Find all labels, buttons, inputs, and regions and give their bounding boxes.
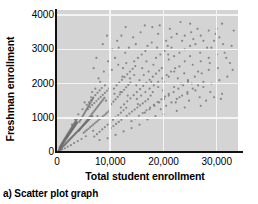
scatter-point: [102, 43, 104, 45]
scatter-point: [137, 103, 139, 105]
x-axis-title: Total student enrollment: [40, 170, 250, 182]
scatter-plot-figure: Freshman enrollment 01000200030004000 01…: [0, 0, 258, 204]
scatter-point: [120, 106, 122, 108]
scatter-point: [112, 125, 114, 127]
scatter-point: [192, 88, 194, 90]
scatter-point: [153, 105, 155, 107]
scatter-point: [192, 38, 194, 40]
scatter-point: [177, 77, 179, 79]
scatter-point: [100, 96, 102, 98]
scatter-point: [209, 91, 211, 93]
scatter-point: [233, 29, 235, 31]
scatter-point: [111, 69, 113, 71]
scatter-point: [176, 98, 178, 100]
scatter-point: [169, 28, 171, 30]
gridline-horizontal: [57, 83, 238, 85]
scatter-point: [123, 103, 125, 105]
scatter-point: [164, 95, 166, 97]
scatter-point: [136, 91, 138, 93]
scatter-point: [125, 26, 127, 28]
scatter-point: [121, 76, 123, 78]
x-axis-tick-label: 0: [54, 156, 60, 168]
scatter-point: [152, 76, 154, 78]
scatter-point: [104, 84, 106, 86]
scatter-point: [179, 21, 181, 23]
scatter-point: [90, 99, 92, 101]
scatter-point: [157, 33, 159, 35]
scatter-point: [135, 43, 137, 45]
scatter-point: [170, 36, 172, 38]
scatter-point: [174, 67, 176, 69]
scatter-point: [175, 101, 177, 103]
scatter-point: [141, 67, 143, 69]
scatter-point: [232, 69, 234, 71]
scatter-point: [189, 55, 191, 57]
scatter-point: [91, 91, 93, 93]
scatter-point: [136, 98, 138, 100]
scatter-point: [93, 102, 95, 104]
scatter-points-layer: [57, 10, 238, 152]
scatter-point: [158, 69, 160, 71]
scatter-point: [218, 36, 220, 38]
scatter-point: [67, 145, 69, 147]
scatter-point: [120, 119, 122, 121]
scatter-point: [145, 109, 147, 111]
scatter-point: [173, 70, 175, 72]
scatter-point: [130, 120, 132, 122]
scatter-point: [149, 79, 151, 81]
scatter-point: [147, 98, 149, 100]
scatter-point: [134, 65, 136, 67]
scatter-point: [138, 124, 140, 126]
scatter-point: [220, 98, 222, 100]
scatter-point: [138, 79, 140, 81]
scatter-point: [144, 112, 146, 114]
scatter-point: [101, 128, 103, 130]
scatter-point: [64, 147, 66, 149]
scatter-point: [139, 88, 141, 90]
scatter-point: [218, 79, 220, 81]
scatter-point: [121, 79, 123, 81]
scatter-point: [167, 45, 169, 47]
plot-area: [57, 10, 238, 152]
scatter-point: [122, 109, 124, 111]
scatter-point: [125, 62, 127, 64]
scatter-point: [194, 43, 196, 45]
scatter-point: [133, 74, 135, 76]
scatter-point: [184, 60, 186, 62]
scatter-point: [145, 60, 147, 62]
scatter-point: [120, 112, 122, 114]
scatter-point: [135, 84, 137, 86]
scatter-point: [129, 77, 131, 79]
scatter-point: [114, 134, 116, 136]
scatter-point: [80, 138, 82, 140]
scatter-point: [167, 53, 169, 55]
x-axis-tick-label: 20,000: [148, 156, 179, 168]
scatter-point: [116, 84, 118, 86]
scatter-point: [144, 91, 146, 93]
scatter-point: [86, 104, 88, 106]
scatter-point: [106, 90, 108, 92]
x-axis-tick-label: 10,000: [95, 156, 126, 168]
scatter-point: [96, 133, 98, 135]
scatter-point: [159, 24, 161, 26]
scatter-point: [129, 97, 131, 99]
scatter-point: [129, 70, 131, 72]
scatter-point: [130, 127, 132, 129]
y-axis-line: [55, 9, 57, 153]
scatter-point: [123, 89, 125, 91]
gridline-vertical: [216, 10, 218, 152]
scatter-point: [181, 40, 183, 42]
scatter-point: [85, 135, 87, 137]
scatter-point: [143, 74, 145, 76]
scatter-point: [131, 68, 133, 70]
scatter-point: [101, 87, 103, 89]
scatter-point: [177, 88, 179, 90]
scatter-point: [159, 53, 161, 55]
scatter-point: [199, 96, 201, 98]
scatter-point: [118, 121, 120, 123]
scatter-point: [116, 40, 118, 42]
scatter-point: [77, 113, 79, 115]
scatter-point: [106, 35, 108, 37]
scatter-point: [88, 101, 90, 103]
scatter-point: [134, 108, 136, 110]
